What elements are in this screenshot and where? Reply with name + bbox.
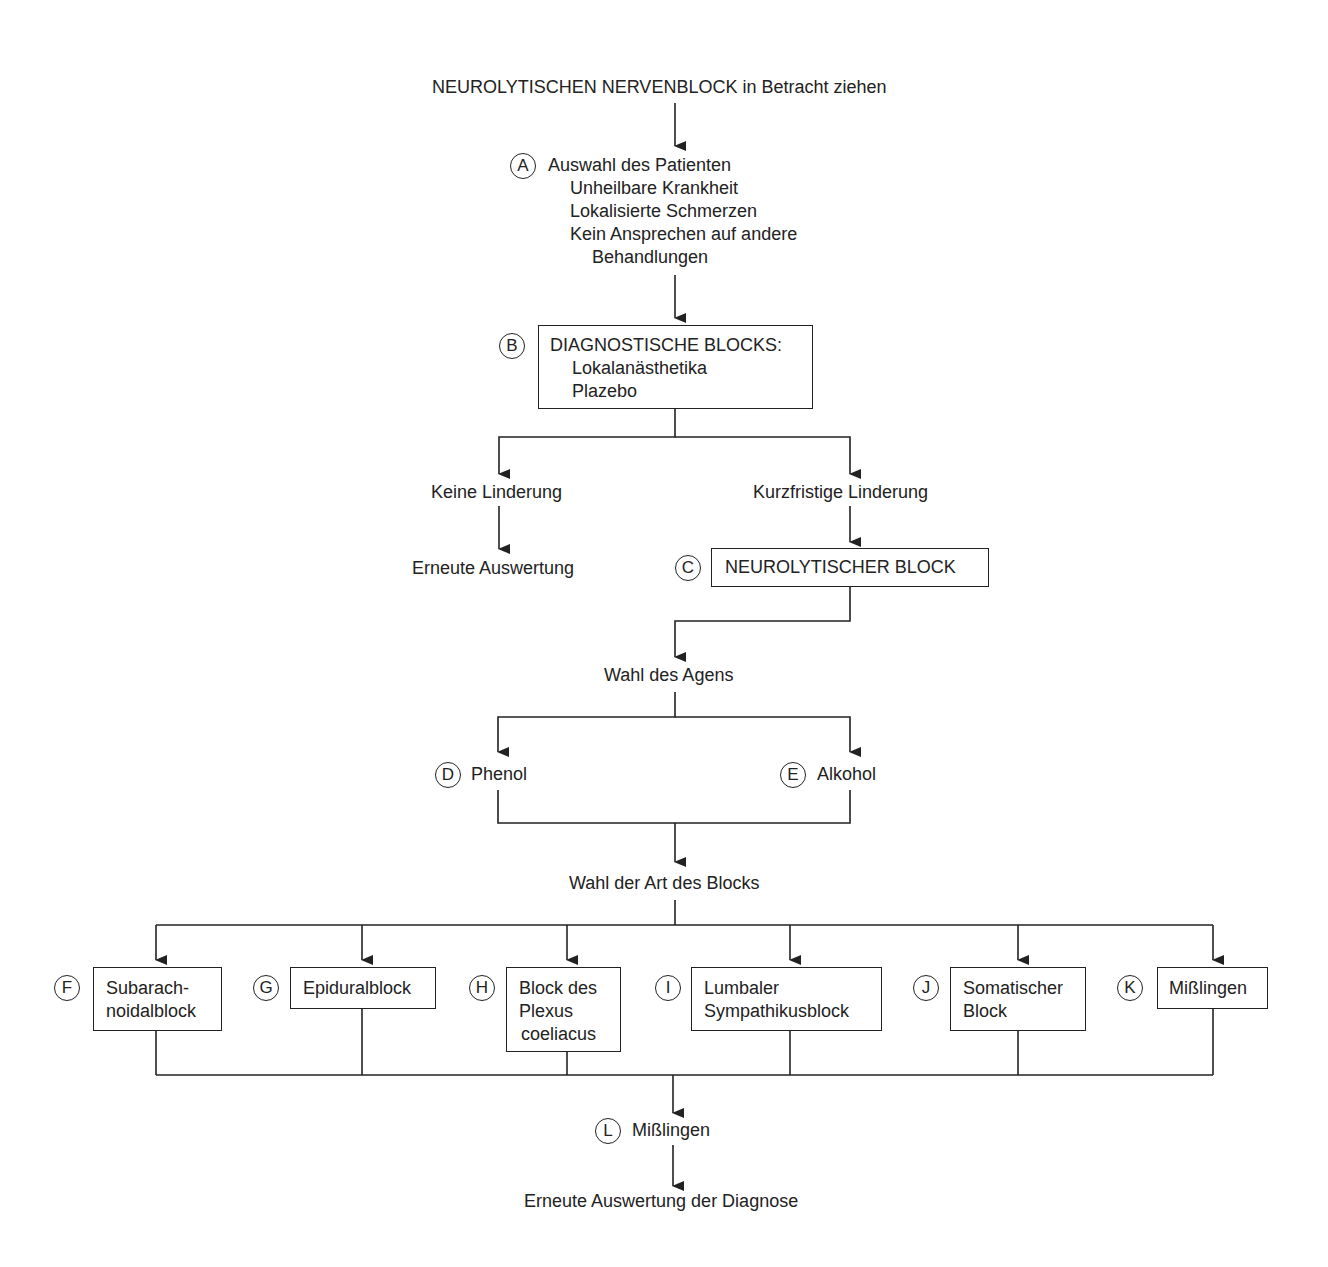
block-type-line: Block des [519, 977, 620, 1000]
block-type-line: Epiduralblock [303, 977, 435, 1000]
agent-choice-label: Wahl des Agens [604, 664, 733, 687]
block-type-line: noidalblock [106, 1000, 221, 1023]
block-type-line: Lumbaler [704, 977, 881, 1000]
block-type-choice-label: Wahl der Art des Blocks [569, 872, 759, 895]
re-evaluation-label: Erneute Auswertung [412, 557, 574, 580]
diagnostic-blocks-box: DIAGNOSTISCHE BLOCKS: Lokalanästhetika P… [538, 325, 813, 409]
marker-f: F [54, 975, 80, 1001]
marker-d: D [435, 762, 461, 788]
block-type-line: Sympathikusblock [704, 1000, 881, 1023]
block-type-line: Somatischer [963, 977, 1085, 1000]
marker-e: E [780, 762, 806, 788]
final-reevaluation-label: Erneute Auswertung der Diagnose [524, 1190, 798, 1213]
criterion: Kein Ansprechen auf andere [548, 223, 797, 246]
block-type-lumbar-sympathetic: Lumbaler Sympathikusblock [691, 967, 882, 1031]
phenol-label: Phenol [471, 763, 527, 786]
block-type-celiac-plexus: Block des Plexus coeliacus [506, 967, 621, 1052]
block-type-line: coeliacus [519, 1023, 620, 1046]
criterion: Unheilbare Krankheit [548, 177, 797, 200]
short-relief-label: Kurzfristige Linderung [753, 481, 928, 504]
criterion: Lokalisierte Schmerzen [548, 200, 797, 223]
marker-l: L [595, 1118, 621, 1144]
block-type-line: Subarach- [106, 977, 221, 1000]
marker-i: I [655, 975, 681, 1001]
neurolytic-block-box: NEUROLYTISCHER BLOCK [711, 548, 989, 587]
diagnostic-blocks-heading: DIAGNOSTISCHE BLOCKS: [550, 334, 812, 357]
patient-selection-heading: Auswahl des Patienten [548, 154, 797, 177]
patient-selection: Auswahl des Patienten Unheilbare Krankhe… [548, 154, 797, 269]
block-type-line: Plexus [519, 1000, 620, 1023]
alcohol-label: Alkohol [817, 763, 876, 786]
failure-label: Mißlingen [632, 1119, 710, 1142]
block-type-subarachnoid: Subarach- noidalblock [93, 967, 222, 1031]
marker-k: K [1117, 975, 1143, 1001]
block-type-epidural: Epiduralblock [290, 967, 436, 1009]
marker-c: C [675, 555, 701, 581]
criterion: Behandlungen [548, 246, 797, 269]
block-type-line: Mißlingen [1169, 977, 1267, 1000]
block-type-line: Block [963, 1000, 1085, 1023]
marker-b: B [499, 333, 525, 359]
block-type-somatic: Somatischer Block [950, 967, 1086, 1031]
flowchart-title: NEUROLYTISCHEN NERVENBLOCK in Betracht z… [432, 76, 887, 99]
diagnostic-item: Lokalanästhetika [550, 357, 812, 380]
no-relief-label: Keine Linderung [431, 481, 562, 504]
marker-j: J [913, 975, 939, 1001]
diagnostic-item: Plazebo [550, 380, 812, 403]
marker-g: G [253, 975, 279, 1001]
neurolytic-block-label: NEUROLYTISCHER BLOCK [725, 557, 956, 577]
marker-a: A [510, 153, 536, 179]
marker-h: H [469, 975, 495, 1001]
block-type-failure: Mißlingen [1157, 967, 1268, 1009]
